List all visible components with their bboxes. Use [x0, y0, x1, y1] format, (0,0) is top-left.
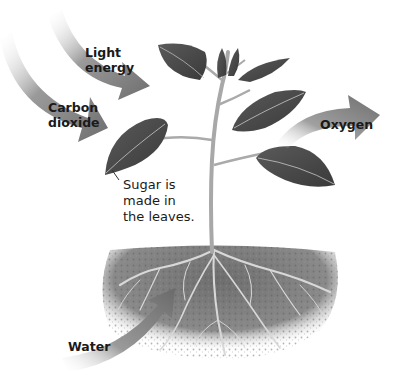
water-label: Water: [68, 339, 110, 354]
diagram-artwork: [0, 0, 400, 388]
sugar-label: Sugar is made in the leaves.: [123, 177, 195, 225]
light-energy-label: Light energy: [85, 45, 134, 75]
carbon-dioxide-label: Carbon dioxide: [48, 100, 100, 130]
leaves: [105, 44, 335, 187]
oxygen-label: Oxygen: [320, 117, 373, 132]
photosynthesis-diagram: Light energy Carbon dioxide Oxygen Water…: [0, 0, 400, 388]
